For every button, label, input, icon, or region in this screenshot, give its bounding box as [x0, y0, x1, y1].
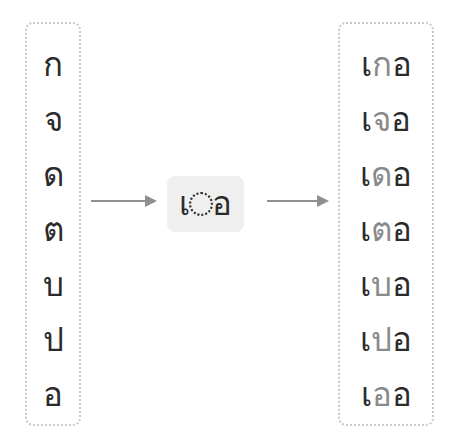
- result-suffix: อ: [392, 320, 412, 359]
- consonant-item: ด: [27, 150, 79, 200]
- result-suffix: อ: [392, 265, 412, 304]
- result-prefix: เ: [360, 320, 371, 359]
- result-prefix: เ: [361, 45, 372, 84]
- result-prefix: เ: [360, 265, 371, 304]
- result-consonant: ก: [372, 45, 392, 84]
- consonant-item: บ: [27, 260, 79, 310]
- result-prefix: เ: [361, 100, 372, 139]
- result-consonant: ป: [371, 320, 392, 359]
- result-suffix: อ: [391, 100, 411, 139]
- result-suffix: อ: [392, 45, 412, 84]
- result-item: เตอ: [340, 205, 432, 255]
- consonant-column: ก จ ด ต บ ป อ: [25, 22, 81, 426]
- vowel-suffix: อ: [212, 184, 232, 223]
- result-consonant: ด: [371, 155, 392, 194]
- result-prefix: เ: [361, 375, 372, 414]
- result-item: เปอ: [340, 315, 432, 365]
- result-suffix: อ: [392, 155, 412, 194]
- result-consonant: บ: [371, 265, 392, 304]
- result-consonant: ต: [371, 210, 392, 249]
- vowel-pattern-box: เอ: [167, 176, 244, 232]
- result-consonant: จ: [372, 100, 391, 139]
- result-consonant: อ: [372, 375, 392, 414]
- placeholder-circle-icon: [189, 192, 213, 216]
- result-suffix: อ: [392, 210, 412, 249]
- result-prefix: เ: [360, 155, 371, 194]
- result-item: เดอ: [340, 150, 432, 200]
- arrow-right-icon: [91, 200, 155, 202]
- consonant-item: ป: [27, 315, 79, 365]
- result-item: เออ: [340, 370, 432, 420]
- result-item: เบอ: [340, 260, 432, 310]
- consonant-item: ก: [27, 40, 79, 90]
- result-prefix: เ: [360, 210, 371, 249]
- result-item: เกอ: [340, 40, 432, 90]
- result-suffix: อ: [392, 375, 412, 414]
- consonant-item: อ: [27, 370, 79, 420]
- consonant-item: จ: [27, 95, 79, 145]
- result-item: เจอ: [340, 95, 432, 145]
- arrow-right-icon: [267, 200, 327, 202]
- result-column: เกอ เจอ เดอ เตอ เบอ เปอ เออ: [338, 22, 434, 426]
- consonant-item: ต: [27, 205, 79, 255]
